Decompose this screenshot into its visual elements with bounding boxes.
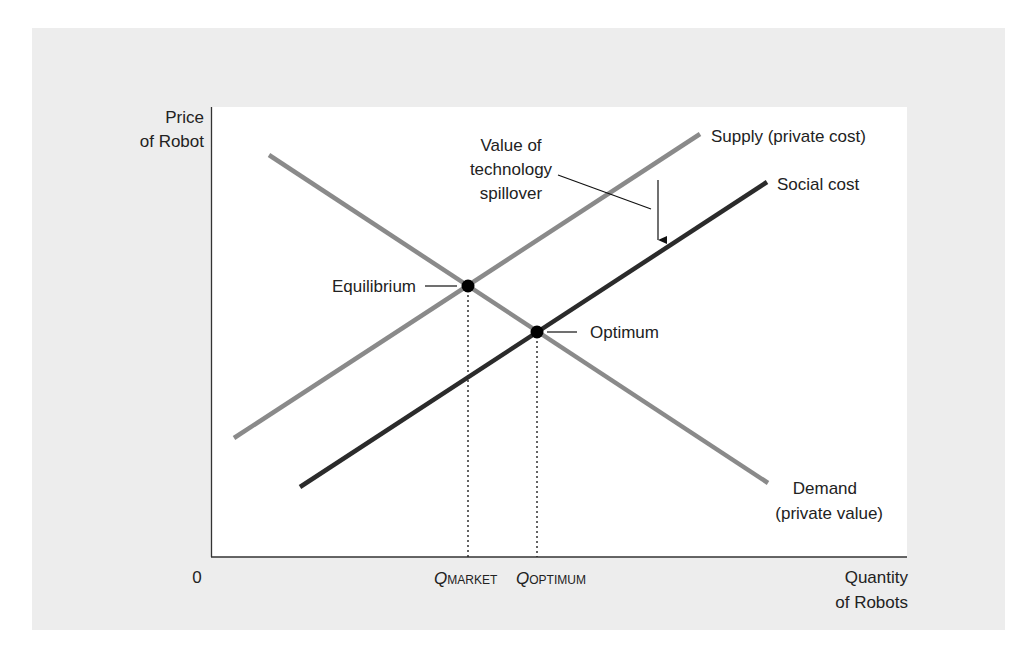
optimum-point: [531, 326, 544, 339]
demand-curve: [269, 155, 768, 483]
optimum-label: Optimum: [590, 323, 659, 342]
spillover-label-line3: spillover: [480, 184, 543, 203]
x-axis-label-line1: Quantity: [845, 568, 909, 587]
spillover-label-line2: technology: [470, 160, 553, 179]
q-market-q: Q: [434, 569, 447, 588]
equilibrium-label: Equilibrium: [332, 277, 416, 296]
origin-label: 0: [192, 568, 201, 587]
q-optimum-q: Q: [516, 569, 529, 588]
spillover-label-line1: Value of: [480, 136, 541, 155]
q-market-tick: QMARKET: [434, 569, 498, 588]
supply-label: Supply (private cost): [711, 127, 866, 146]
y-axis-label-line1: Price: [165, 108, 204, 127]
q-market-sub: MARKET: [447, 573, 498, 587]
chart-svg: Price of Robot Value of technology spill…: [0, 0, 1019, 661]
q-optimum-sub: OPTIMUM: [529, 573, 586, 587]
q-optimum-tick: QOPTIMUM: [516, 569, 586, 588]
y-axis-label-line2: of Robot: [140, 132, 205, 151]
social-cost-label: Social cost: [777, 175, 859, 194]
x-axis-label-line2: of Robots: [835, 593, 908, 612]
spillover-leader-line: [558, 175, 651, 209]
demand-label-line2: (private value): [775, 504, 883, 523]
demand-label-line1: Demand: [793, 479, 857, 498]
equilibrium-point: [462, 280, 475, 293]
